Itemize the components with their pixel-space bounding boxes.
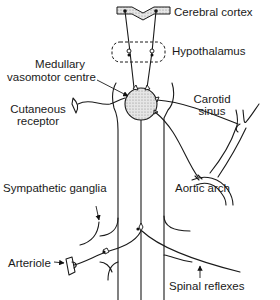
label-spinal-reflexes: Spinal reflexes bbox=[169, 280, 244, 292]
label-cerebral-cortex: Cerebral cortex bbox=[174, 6, 253, 18]
label-cutaneous-line2: receptor bbox=[8, 115, 68, 127]
label-hypothalamus: Hypothalamus bbox=[172, 45, 246, 57]
label-carotid-line2: sinus bbox=[188, 105, 236, 117]
arteriole-vessel bbox=[66, 257, 76, 275]
hypothalamus-region bbox=[112, 42, 165, 62]
label-medullary-line1: Medullary bbox=[25, 58, 95, 70]
label-medullary-line2: vasomotor centre bbox=[7, 71, 96, 83]
label-cutaneous-line1: Cutaneous bbox=[8, 103, 68, 115]
vasomotor-centre-circle bbox=[125, 88, 157, 120]
label-arteriole: Arteriole bbox=[8, 257, 51, 269]
label-aortic-arch: Aortic arch bbox=[175, 182, 230, 194]
label-sympathetic-ganglia: Sympathetic ganglia bbox=[3, 182, 107, 194]
label-carotid-line1: Carotid bbox=[188, 93, 236, 105]
